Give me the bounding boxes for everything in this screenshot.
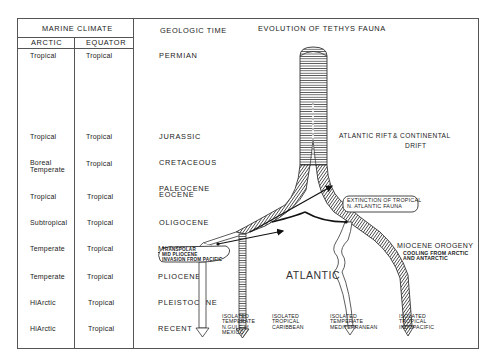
outcome-gulf-of-mexico: ISOLATEDTEMPERATEN.GULF ofMEXICO bbox=[222, 314, 255, 336]
transpolar-line3: INVASION FROM PACIFIC bbox=[162, 257, 222, 262]
outcome-indopacific: ISOLATEDTROPICALINDOPACIFIC bbox=[399, 314, 434, 330]
outcome-line: MEXICO bbox=[222, 329, 244, 335]
tethys-trunk bbox=[300, 47, 327, 166]
continental-drift-label: & CONTINENTAL bbox=[393, 133, 450, 140]
atlantic-label: ATLANTIC bbox=[286, 270, 340, 281]
cooling-label: COOLING FROM ARCTICAND ANTARCTIC bbox=[403, 251, 469, 262]
outcome-caribbean: ISOLATEDTROPICALCARIBBEAN bbox=[272, 314, 304, 330]
transpolar-label: TRANSPOLARMID PLIOCENEINVASION FROM PACI… bbox=[162, 248, 222, 262]
atlantic-rift-label: ATLANTIC RIFT bbox=[339, 133, 392, 140]
outcome-line: CARIBBEAN bbox=[272, 324, 304, 330]
outcome-line: MEDITERRANEAN bbox=[330, 324, 378, 330]
miocene-orogeny-label: MIOCENE OROGENY bbox=[397, 242, 473, 249]
tethys-evolution-diagram bbox=[0, 0, 493, 360]
extinction-label: EXTINCTION OF TROPICALN. ATLANTIC FAUNA bbox=[347, 198, 421, 209]
drift-label: DRIFT bbox=[405, 143, 426, 150]
cooling-line2: AND ANTARCTIC bbox=[403, 255, 448, 261]
outcome-mediterranean: ISOLATEDTEMPERATEMEDITERRANEAN bbox=[330, 314, 378, 330]
right-branch bbox=[316, 165, 414, 336]
extinction-line2: N. ATLANTIC FAUNA bbox=[347, 203, 402, 209]
outcome-line: INDOPACIFIC bbox=[399, 324, 434, 330]
